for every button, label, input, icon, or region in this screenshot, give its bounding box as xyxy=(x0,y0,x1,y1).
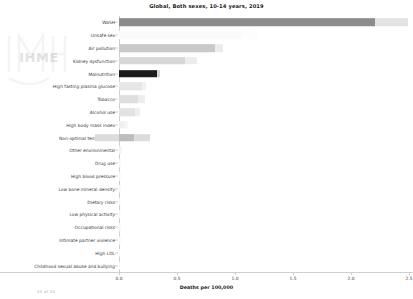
y-axis-label: Unsafe sex xyxy=(91,33,115,38)
bar[interactable] xyxy=(119,19,375,27)
bar[interactable] xyxy=(119,211,120,219)
bar[interactable] xyxy=(119,121,125,129)
bar-row: Malnutrition xyxy=(0,67,413,80)
y-axis-label: Kidney dysfunction xyxy=(73,58,115,63)
bar-row: Occupational risks xyxy=(0,221,413,234)
y-axis-tick xyxy=(115,175,118,176)
bar-row: Kidney dysfunction xyxy=(0,54,413,67)
bar-row: High body mass index xyxy=(0,118,413,131)
bar-row: Other environmental xyxy=(0,144,413,157)
y-axis-label: High LDL xyxy=(95,250,115,255)
bar-row: Non-optimal temperature xyxy=(0,131,413,144)
bar-row: Low physical activity xyxy=(0,208,413,221)
x-axis-tick-label: 0.5 xyxy=(174,276,181,281)
x-axis-title: Deaths per 100,000 xyxy=(0,285,413,290)
x-axis-tick-label: 0.0 xyxy=(116,276,123,281)
y-axis-label: Childhood sexual abuse and bullying xyxy=(34,263,115,268)
bar-row: Low bone mineral density xyxy=(0,182,413,195)
y-axis-tick xyxy=(115,22,118,23)
bar[interactable] xyxy=(119,95,138,103)
y-axis-label: High fasting plasma glucose xyxy=(53,84,115,89)
x-axis-tick-label: 1.5 xyxy=(290,276,297,281)
y-axis-tick xyxy=(115,73,118,74)
bar[interactable] xyxy=(119,57,185,65)
x-axis-tick-label: 2.5 xyxy=(406,276,413,281)
y-axis-tick xyxy=(115,124,118,125)
y-axis-tick xyxy=(115,111,118,112)
bar[interactable] xyxy=(119,159,120,167)
y-axis-tick xyxy=(115,35,118,36)
y-axis-tick xyxy=(115,99,118,100)
y-axis-label: Dietary risks xyxy=(87,199,115,204)
bar-row: Alcohol use xyxy=(0,106,413,119)
x-axis-tick xyxy=(235,272,236,275)
x-axis-tick xyxy=(409,272,410,275)
bar[interactable] xyxy=(119,172,120,180)
y-axis-tick xyxy=(115,239,118,240)
bar[interactable] xyxy=(119,134,134,142)
x-axis-tick-label: 1.0 xyxy=(232,276,239,281)
y-axis-label: Drug use xyxy=(95,161,115,166)
x-axis-tick xyxy=(293,272,294,275)
y-axis-tick xyxy=(115,201,118,202)
y-axis-label: WaSH xyxy=(102,20,115,25)
bar-chart: IHME 20 of 20 Global, Both sexes, 10-14 … xyxy=(0,0,413,299)
y-axis-label: Low bone mineral density xyxy=(58,186,115,191)
bar-row: Unsafe sex xyxy=(0,29,413,42)
y-axis-label: Low physical activity xyxy=(69,212,115,217)
bar-row: WaSH xyxy=(0,16,413,29)
bar-row: High blood pressure xyxy=(0,170,413,183)
bar[interactable] xyxy=(119,236,120,244)
y-axis-tick xyxy=(115,60,118,61)
bar-row: Dietary risks xyxy=(0,195,413,208)
y-axis-label: Other environmental xyxy=(69,148,115,153)
y-axis-tick xyxy=(115,86,118,87)
y-axis-tick xyxy=(115,265,118,266)
y-axis-tick xyxy=(115,188,118,189)
bar[interactable] xyxy=(119,198,120,206)
bar-row: Intimate partner violence xyxy=(0,234,413,247)
bar[interactable] xyxy=(119,147,121,155)
y-axis-label: Tobacco xyxy=(97,97,115,102)
y-axis-tick xyxy=(115,150,118,151)
y-axis-label: High blood pressure xyxy=(71,173,115,178)
x-axis-tick xyxy=(351,272,352,275)
y-axis-label: Malnutrition xyxy=(89,71,115,76)
bar[interactable] xyxy=(119,223,120,231)
bar-row: High LDL xyxy=(0,246,413,259)
y-axis-label: High body mass index xyxy=(66,122,115,127)
bar-row: High fasting plasma glucose xyxy=(0,80,413,93)
bar[interactable] xyxy=(119,185,120,193)
chart-title: Global, Both sexes, 10-14 years, 2019 xyxy=(0,3,413,9)
bar[interactable] xyxy=(119,83,142,91)
y-axis-label: Intimate partner violence xyxy=(59,237,115,242)
y-axis-tick xyxy=(115,47,118,48)
x-axis-tick xyxy=(119,272,120,275)
x-axis-tick-label: 2.0 xyxy=(348,276,355,281)
y-axis-label: Air pollution xyxy=(88,45,115,50)
bar-row: Drug use xyxy=(0,157,413,170)
y-axis-tick xyxy=(115,252,118,253)
bar[interactable] xyxy=(119,44,215,52)
bar[interactable] xyxy=(119,108,135,116)
y-axis-tick xyxy=(115,227,118,228)
y-axis-label: Occupational risks xyxy=(75,225,115,230)
bar-row: Tobacco xyxy=(0,93,413,106)
bar[interactable] xyxy=(119,70,157,78)
y-axis-tick xyxy=(115,214,118,215)
bar-row: Air pollution xyxy=(0,42,413,55)
y-axis-tick xyxy=(115,163,118,164)
x-axis-tick xyxy=(177,272,178,275)
bar-row: Childhood sexual abuse and bullying xyxy=(0,259,413,272)
y-axis-label: Alcohol use xyxy=(90,109,115,114)
bar[interactable] xyxy=(119,31,242,39)
